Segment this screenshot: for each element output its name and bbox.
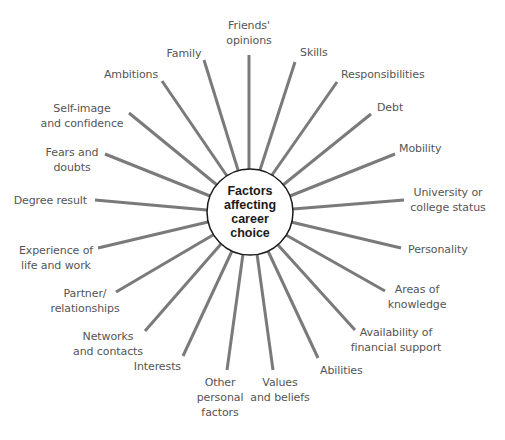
- spoke-abilities: [268, 251, 318, 358]
- spoke-skills: [260, 62, 295, 170]
- spoke-financial-support: [278, 245, 355, 330]
- label-university-status: University or college status: [410, 185, 485, 215]
- label-friends-opinions: Friends' opinions: [226, 18, 271, 48]
- spoke-university-status: [293, 200, 404, 209]
- spoke-self-image: [129, 113, 217, 185]
- label-debt: Debt: [377, 100, 403, 115]
- spoke-networks-contacts: [145, 244, 221, 331]
- label-degree-result: Degree result: [14, 193, 87, 208]
- label-abilities: Abilities: [320, 363, 363, 378]
- label-networks-contacts: Networks and contacts: [73, 329, 143, 359]
- central-title: Factors affecting career choice: [224, 184, 276, 240]
- spoke-debt: [283, 114, 371, 185]
- label-partner-relationships: Partner/ relationships: [50, 286, 119, 316]
- spoke-ambitions: [162, 81, 227, 176]
- label-family: Family: [167, 46, 202, 61]
- spoke-mobility: [290, 154, 395, 196]
- label-experience: Experience of life and work: [19, 243, 93, 273]
- label-financial-support: Availability of financial support: [351, 325, 442, 355]
- label-ambitions: Ambitions: [104, 67, 158, 82]
- label-responsibilities: Responsibilities: [341, 67, 425, 82]
- spoke-other-personal-factors: [227, 254, 243, 370]
- label-skills: Skills: [300, 45, 328, 60]
- label-fears-doubts: Fears and doubts: [46, 145, 99, 175]
- spoke-fears-doubts: [105, 154, 210, 196]
- spoke-personality: [291, 222, 401, 248]
- spoke-partner-relationships: [116, 235, 213, 292]
- label-other-personal-factors: Other personal factors: [197, 375, 244, 420]
- label-values-beliefs: Values and beliefs: [250, 375, 309, 405]
- spoke-interests: [183, 251, 232, 356]
- label-personality: Personality: [408, 242, 468, 257]
- label-interests: Interests: [134, 359, 181, 374]
- label-areas-of-knowledge: Areas of knowledge: [388, 282, 447, 312]
- spoke-family: [204, 60, 238, 170]
- spoke-areas-of-knowledge: [286, 235, 385, 291]
- spoke-degree-result: [95, 200, 207, 210]
- spoke-responsibilities: [272, 82, 337, 175]
- spoke-experience: [98, 222, 208, 248]
- label-self-image: Self-image and confidence: [40, 101, 123, 131]
- label-mobility: Mobility: [399, 141, 441, 156]
- spoke-values-beliefs: [257, 254, 273, 370]
